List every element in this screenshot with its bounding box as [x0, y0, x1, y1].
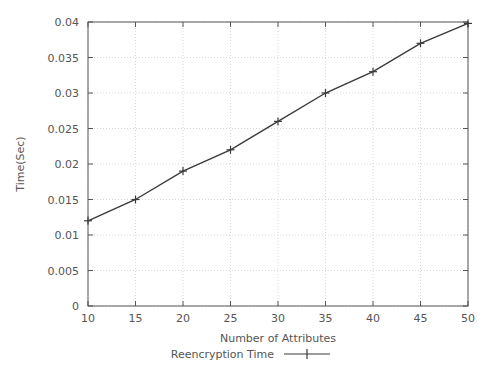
y-tick-label: 0.015	[48, 194, 80, 207]
x-tick-label: 40	[366, 312, 380, 325]
x-tick-label: 50	[461, 312, 475, 325]
x-tick-label: 35	[319, 312, 333, 325]
legend-item-label: Reencryption Time	[171, 348, 274, 361]
y-tick-label: 0	[72, 300, 79, 313]
x-tick-label: 45	[414, 312, 428, 325]
y-tick-label: 0.035	[48, 52, 80, 65]
x-axis-label: Number of Attributes	[220, 332, 336, 345]
y-tick-label: 0.01	[55, 229, 80, 242]
y-tick-label: 0.025	[48, 123, 80, 136]
x-tick-label: 15	[129, 312, 143, 325]
y-tick-label: 0.005	[48, 265, 80, 278]
chart-container: 00.0050.010.0150.020.0250.030.0350.04 10…	[0, 0, 485, 382]
x-tick-label: 20	[176, 312, 190, 325]
y-tick-label: 0.02	[55, 158, 80, 171]
x-tick-label: 25	[224, 312, 238, 325]
x-tick-label: 30	[271, 312, 285, 325]
y-tick-label: 0.03	[55, 87, 80, 100]
line-chart-plot: 00.0050.010.0150.020.0250.030.0350.04 10…	[0, 0, 485, 382]
x-tick-label: 10	[81, 312, 95, 325]
y-axis-label: Time(Sec)	[14, 136, 27, 192]
y-tick-label: 0.04	[55, 16, 80, 29]
